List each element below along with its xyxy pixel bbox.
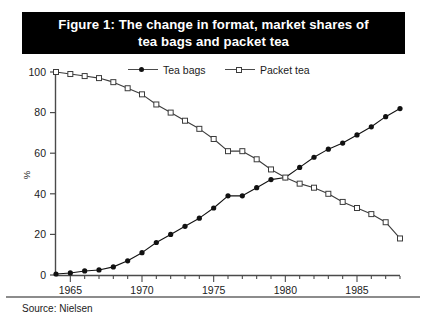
x-tick-label: 1970 [130, 284, 154, 296]
data-point-marker [226, 149, 231, 154]
series-line [56, 72, 400, 238]
data-point-marker [240, 149, 245, 154]
data-point-marker [125, 86, 130, 91]
data-point-marker [383, 114, 388, 119]
data-point-marker [68, 72, 73, 77]
x-axis-ticks: 19651970197519801985 [59, 276, 400, 296]
data-point-marker [97, 76, 102, 81]
data-point-marker [355, 206, 360, 211]
data-point-marker [82, 268, 87, 273]
data-point-marker [326, 191, 331, 196]
data-point-marker [383, 220, 388, 225]
data-point-marker [154, 102, 159, 107]
data-point-marker [254, 157, 259, 162]
data-point-marker [283, 175, 288, 180]
figure-container: Figure 1: The change in format, market s… [0, 0, 426, 325]
series-packet-tea [54, 70, 403, 241]
y-tick-label: 20 [34, 228, 46, 240]
x-tick-label: 1980 [274, 284, 298, 296]
series-line [56, 109, 400, 274]
data-point-marker [111, 264, 116, 269]
data-point-marker [326, 147, 331, 152]
y-axis-title: % [21, 170, 32, 179]
data-point-marker [211, 205, 216, 210]
data-point-marker [211, 136, 216, 141]
source-caption: Source: Nielsen [22, 303, 93, 314]
data-point-marker [268, 177, 273, 182]
data-point-marker [82, 74, 87, 79]
data-point-marker [96, 267, 101, 272]
y-tick-label: 60 [34, 147, 46, 159]
y-tick-label: 0 [40, 269, 46, 281]
data-point-marker [168, 110, 173, 115]
data-point-marker [254, 185, 259, 190]
data-point-marker [397, 106, 402, 111]
data-point-marker [154, 240, 159, 245]
y-axis-ticks: 020406080100 [28, 66, 56, 281]
data-point-marker [225, 193, 230, 198]
data-point-marker [168, 232, 173, 237]
data-point-marker [68, 270, 73, 275]
data-point-marker [369, 212, 374, 217]
data-point-marker [312, 185, 317, 190]
source-divider [6, 296, 420, 298]
data-point-marker [140, 92, 145, 97]
line-chart-svg: 020406080100 19651970197519801985 % [0, 0, 426, 300]
data-point-marker [398, 236, 403, 241]
data-point-marker [240, 193, 245, 198]
x-tick-label: 1965 [59, 284, 83, 296]
data-point-marker [354, 132, 359, 137]
data-point-marker [125, 258, 130, 263]
data-point-marker [182, 224, 187, 229]
x-tick-label: 1985 [345, 284, 369, 296]
series-tea-bags [53, 106, 402, 277]
data-point-marker [297, 165, 302, 170]
data-point-marker [269, 167, 274, 172]
y-tick-label: 100 [28, 66, 46, 78]
chart-series-group [53, 70, 402, 277]
data-point-marker [54, 70, 59, 75]
data-point-marker [53, 271, 58, 276]
x-tick-label: 1975 [202, 284, 226, 296]
data-point-marker [297, 181, 302, 186]
y-tick-label: 40 [34, 188, 46, 200]
data-point-marker [197, 126, 202, 131]
data-point-marker [369, 124, 374, 129]
data-point-marker [340, 199, 345, 204]
data-point-marker [311, 155, 316, 160]
chart-plot-area: 020406080100 19651970197519801985 % [0, 0, 426, 300]
data-point-marker [340, 140, 345, 145]
data-point-marker [111, 80, 116, 85]
chart-axes [56, 72, 401, 276]
y-tick-label: 80 [34, 106, 46, 118]
data-point-marker [183, 118, 188, 123]
data-point-marker [139, 250, 144, 255]
data-point-marker [197, 216, 202, 221]
